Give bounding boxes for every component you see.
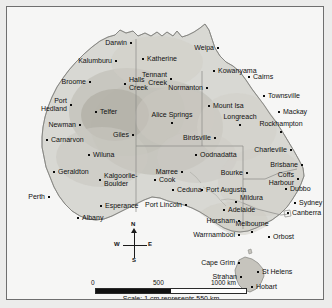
place-marker[interactable] [268, 236, 271, 239]
place-label[interactable]: Cape Grim [201, 259, 235, 267]
place-marker[interactable] [132, 134, 135, 137]
place-marker[interactable] [154, 179, 157, 182]
place-label[interactable]: Sydney [299, 199, 322, 207]
scale-tick-500: 500 [153, 279, 164, 286]
place-label[interactable]: Kalgoorlie-Boulder [104, 172, 137, 187]
place-label[interactable]: CoffsHarbour [269, 171, 294, 186]
place-label[interactable]: St Helens [262, 268, 292, 276]
place-marker[interactable] [130, 42, 133, 45]
place-marker[interactable] [124, 83, 127, 86]
place-label[interactable]: Mildura [240, 194, 263, 202]
place-marker[interactable] [77, 217, 80, 220]
compass-north-arrow-icon [131, 228, 137, 233]
place-marker[interactable] [280, 131, 283, 134]
place-marker[interactable] [195, 154, 198, 157]
place-marker[interactable] [251, 231, 254, 234]
place-marker[interactable] [95, 111, 98, 114]
place-marker[interactable] [70, 104, 73, 107]
place-marker[interactable] [100, 205, 103, 208]
place-label[interactable]: Normanton [168, 84, 203, 92]
place-label[interactable]: Albany [82, 214, 103, 222]
place-label[interactable]: Birdsville [183, 134, 211, 142]
place-marker[interactable] [89, 81, 92, 84]
place-marker[interactable] [290, 149, 293, 152]
place-marker[interactable] [297, 178, 300, 181]
scale-tick-labels: 0 500 1000 km [91, 279, 251, 288]
place-marker[interactable] [142, 58, 145, 61]
place-label[interactable]: PortHedland [41, 97, 67, 112]
place-label[interactable]: Kalumburu [78, 57, 112, 65]
australia-map-canvas[interactable]: DarwinKatherineWeipaKowanyamaCairnsKalum… [7, 7, 323, 299]
place-label[interactable]: Bourke [221, 169, 243, 177]
place-marker[interactable] [181, 171, 184, 174]
place-label[interactable]: Oodnadatta [200, 151, 237, 159]
place-marker[interactable] [257, 271, 260, 274]
place-label[interactable]: Warrnambool [193, 231, 235, 239]
place-marker[interactable] [238, 234, 241, 237]
place-label[interactable]: Geraldton [58, 168, 89, 176]
place-label[interactable]: Port Augusta [206, 186, 246, 194]
place-label[interactable]: Wiluna [93, 151, 114, 159]
place-label[interactable]: Ceduna [177, 186, 202, 194]
place-marker[interactable] [301, 164, 304, 167]
place-marker[interactable] [46, 139, 49, 142]
place-marker[interactable] [246, 172, 249, 175]
place-label[interactable]: Port Lincoln [145, 201, 182, 209]
place-marker[interactable] [170, 78, 173, 81]
place-label[interactable]: Marree [156, 168, 178, 176]
place-marker[interactable] [213, 70, 216, 73]
place-marker[interactable] [206, 87, 209, 90]
place-marker[interactable] [294, 202, 297, 205]
scale-bar [95, 288, 247, 294]
place-label[interactable]: Rockhampton [241, 120, 321, 128]
place-label[interactable]: Esperance [105, 202, 138, 210]
place-marker[interactable] [240, 276, 243, 279]
place-marker[interactable] [208, 105, 211, 108]
place-marker[interactable] [235, 201, 238, 204]
place-label[interactable]: Cairns [253, 73, 273, 81]
place-label[interactable]: Telfer [100, 108, 117, 116]
place-marker[interactable] [79, 124, 82, 127]
compass-label-north: N [131, 221, 135, 227]
place-marker[interactable] [115, 60, 118, 63]
place-label[interactable]: Katherine [147, 55, 177, 63]
place-marker[interactable] [263, 95, 266, 98]
place-label[interactable]: Newman [48, 121, 76, 129]
place-label[interactable]: Melbourne [212, 220, 292, 228]
scale-tick-0: 0 [91, 279, 95, 286]
place-marker[interactable] [223, 209, 226, 212]
place-label[interactable]: Canberra [292, 209, 321, 217]
place-marker[interactable] [285, 188, 288, 191]
place-label[interactable]: Kowanyama [218, 67, 257, 75]
place-label[interactable]: Brisbane [270, 161, 298, 169]
place-label[interactable]: TennantCreek [142, 71, 167, 86]
place-marker[interactable] [172, 189, 175, 192]
place-label[interactable]: Perth [28, 193, 45, 201]
place-marker[interactable] [171, 122, 174, 125]
place-marker[interactable] [201, 189, 204, 192]
place-label[interactable]: Mount Isa [213, 102, 244, 110]
place-label[interactable]: Cook [159, 176, 175, 184]
place-marker[interactable] [287, 212, 290, 215]
place-marker[interactable] [238, 262, 241, 265]
place-label[interactable]: Mackay [283, 108, 307, 116]
place-marker[interactable] [99, 179, 102, 182]
place-label[interactable]: Orbost [273, 233, 294, 241]
place-marker[interactable] [248, 76, 251, 79]
place-marker[interactable] [217, 47, 220, 50]
scale-caption: Scale: 1 cm represents 550 km [91, 295, 251, 299]
place-marker[interactable] [214, 137, 217, 140]
place-label[interactable]: Darwin [105, 39, 127, 47]
place-label[interactable]: Weipa [194, 44, 214, 52]
place-label[interactable]: Charleville [254, 146, 287, 154]
place-label[interactable]: Townsville [268, 92, 300, 100]
place-label[interactable]: Adelaide [228, 206, 255, 214]
place-marker[interactable] [185, 204, 188, 207]
place-label[interactable]: Broome [61, 78, 86, 86]
place-marker[interactable] [48, 196, 51, 199]
place-marker[interactable] [53, 171, 56, 174]
place-marker[interactable] [88, 154, 91, 157]
place-label[interactable]: Dubbo [290, 185, 311, 193]
place-label[interactable]: Carnarvon [51, 136, 84, 144]
place-label[interactable]: Giles [113, 131, 129, 139]
